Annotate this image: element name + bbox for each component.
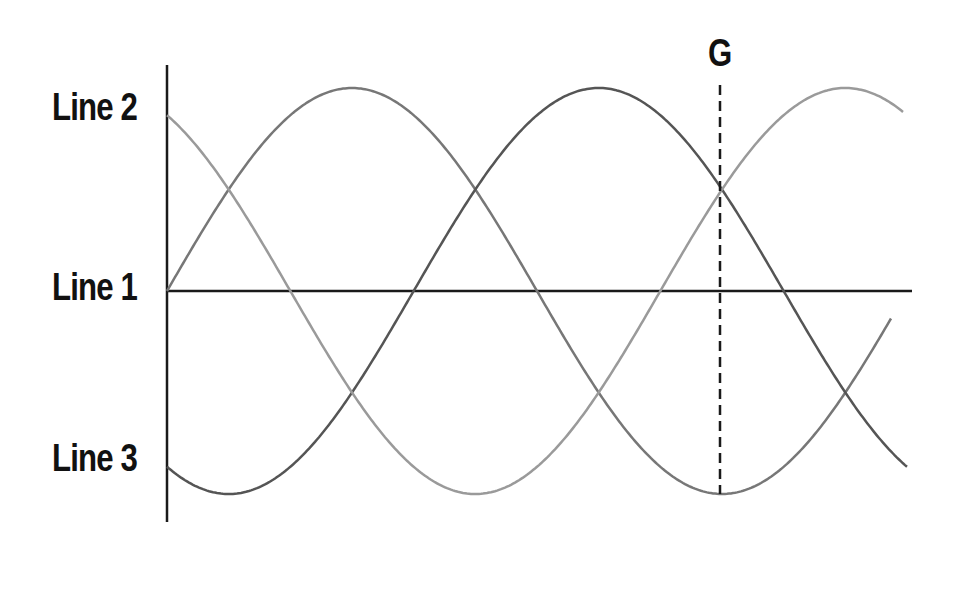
label-line-3: Line 3	[52, 437, 137, 480]
label-g-marker: G	[708, 32, 731, 75]
three-phase-diagram	[0, 0, 965, 611]
label-line-2: Line 2	[52, 86, 137, 129]
label-line-1: Line 1	[52, 266, 137, 309]
